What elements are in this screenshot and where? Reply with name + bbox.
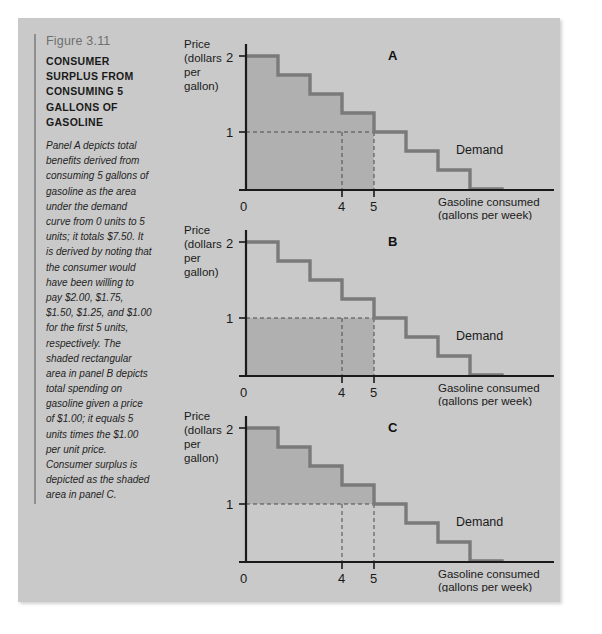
figure-title: CONSUMER SURPLUS FROM CONSUMING 5 GALLON… bbox=[46, 54, 152, 130]
panel-letter-b: B bbox=[388, 234, 397, 249]
panel-letter-c: C bbox=[388, 420, 398, 435]
y-axis-label-line1: Price bbox=[184, 224, 210, 236]
x-tick-label-0: 0 bbox=[240, 385, 247, 400]
x-axis-label-line1: Gasoline consumed bbox=[438, 568, 540, 580]
y-axis-label-line2: (dollars bbox=[184, 424, 222, 436]
x-tick-label-5: 5 bbox=[370, 571, 377, 586]
x-tick-label-4: 4 bbox=[338, 571, 345, 586]
y-tick-label-2: 2 bbox=[226, 422, 233, 437]
y-axis-label-line3: per bbox=[184, 252, 201, 264]
y-axis-label-line2: (dollars bbox=[184, 238, 222, 250]
x-tick-label-0: 0 bbox=[240, 571, 247, 586]
y-axis-label-line2: (dollars bbox=[184, 52, 222, 64]
x-tick-label-0: 0 bbox=[240, 199, 247, 214]
y-tick-label-2: 2 bbox=[226, 236, 233, 251]
x-axis-label-line2: (gallons per week) bbox=[438, 581, 532, 592]
x-tick-label-4: 4 bbox=[338, 199, 345, 214]
y-axis-label-line1: Price bbox=[184, 38, 210, 50]
y-axis-label-line1: Price bbox=[184, 410, 210, 422]
y-axis-label-line4: gallon) bbox=[184, 452, 219, 464]
y-tick-label-1: 1 bbox=[226, 497, 233, 512]
y-axis-label-line4: gallon) bbox=[184, 80, 219, 92]
demand-label: Demand bbox=[456, 515, 503, 529]
demand-label: Demand bbox=[456, 143, 503, 157]
y-tick-label-1: 1 bbox=[226, 125, 233, 140]
figure-caption-block: Figure 3.11 CONSUMER SURPLUS FROM CONSUM… bbox=[34, 34, 152, 503]
panel-c: Price (dollars per gallon) 2 1 0 4 5 Gas… bbox=[176, 402, 566, 592]
y-axis-label-line4: gallon) bbox=[184, 266, 219, 278]
x-tick-label-5: 5 bbox=[370, 199, 377, 214]
panel-b: Price (dollars per gallon) 2 1 0 4 5 Gas… bbox=[176, 216, 566, 406]
y-tick-label-1: 1 bbox=[226, 311, 233, 326]
y-axis-label-line3: per bbox=[184, 66, 201, 78]
demand-label: Demand bbox=[456, 329, 503, 343]
y-tick-label-2: 2 bbox=[226, 50, 233, 65]
figure-caption-text: Panel A depicts total benefits derived f… bbox=[46, 138, 152, 503]
panel-b-shaded-region bbox=[246, 318, 374, 376]
figure-container: Figure 3.11 CONSUMER SURPLUS FROM CONSUM… bbox=[18, 18, 560, 602]
x-tick-label-5: 5 bbox=[370, 385, 377, 400]
x-tick-label-4: 4 bbox=[338, 385, 345, 400]
caption-vertical-rule bbox=[34, 34, 36, 504]
panel-a: Price (dollars per gallon) 2 1 0 4 5 Gas… bbox=[176, 30, 566, 220]
x-axis-label-line1: Gasoline consumed bbox=[438, 382, 540, 394]
figure-number: Figure 3.11 bbox=[46, 34, 152, 48]
panel-letter-a: A bbox=[388, 48, 398, 63]
x-axis-label-line1: Gasoline consumed bbox=[438, 196, 540, 208]
y-axis-label-line3: per bbox=[184, 438, 201, 450]
